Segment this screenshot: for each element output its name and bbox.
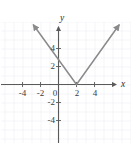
grid-lines [1, 22, 131, 143]
x-tick-label-neg4: -4 [14, 89, 31, 98]
y-axis-label: y [60, 14, 64, 23]
x-axis-label: x [121, 80, 125, 89]
y-tick-label-neg4: -4 [40, 116, 55, 125]
x-tick-label-neg2: -2 [32, 89, 49, 98]
coordinate-plane-svg [0, 0, 132, 155]
y-tick-label-neg2: -2 [40, 98, 55, 107]
y-tick-label-pos4: 4 [45, 44, 55, 53]
y-tick-label-pos2: 2 [45, 62, 55, 71]
x-tick-label-pos4: 4 [90, 89, 100, 98]
graph-figure: -4 -2 0 2 4 4 2 -2 -4 x y [0, 0, 132, 155]
x-tick-label-pos2: 2 [72, 89, 82, 98]
